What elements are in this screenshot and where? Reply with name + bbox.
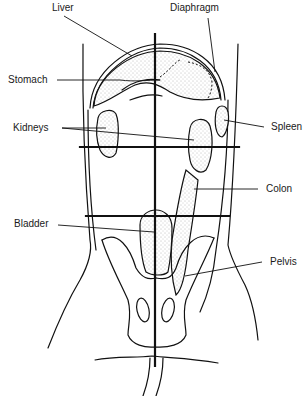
spleen — [215, 106, 228, 137]
diagram-canvas — [0, 0, 307, 396]
label-bladder: Bladder — [14, 218, 48, 230]
label-stomach: Stomach — [8, 74, 47, 86]
liver — [94, 51, 220, 106]
label-spleen: Spleen — [271, 121, 302, 133]
anatomy-diagram: Liver Diaphragm Stomach Kidneys Spleen C… — [0, 0, 307, 396]
label-kidneys: Kidneys — [13, 122, 49, 134]
body-outline — [48, 44, 258, 348]
label-colon: Colon — [266, 183, 292, 195]
colon — [171, 170, 198, 295]
kidney-right — [189, 119, 213, 172]
label-liver: Liver — [52, 2, 74, 14]
label-diaphragm: Diaphragm — [170, 2, 219, 14]
kidney-left — [97, 111, 119, 158]
label-pelvis: Pelvis — [270, 256, 297, 268]
